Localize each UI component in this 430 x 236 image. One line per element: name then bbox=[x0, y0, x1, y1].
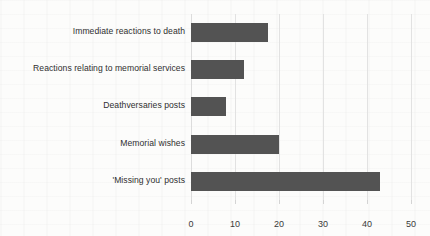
bar-row: Deathversaries posts bbox=[191, 88, 411, 125]
xtick-label-30: 30 bbox=[310, 219, 336, 229]
bar-rows: Immediate reactions to deathReactions re… bbox=[191, 14, 411, 200]
xtick-label-0: 0 bbox=[178, 219, 204, 229]
gridline-50 bbox=[411, 14, 412, 200]
category-label: Immediate reactions to death bbox=[0, 26, 185, 36]
xtick-label-50: 50 bbox=[398, 219, 424, 229]
xtick-label-40: 40 bbox=[354, 219, 380, 229]
bar-row: 'Missing you' posts bbox=[191, 163, 411, 200]
bar-row: Memorial wishes bbox=[191, 126, 411, 163]
bar bbox=[191, 60, 244, 79]
tickmark-0 bbox=[191, 200, 192, 204]
bar bbox=[191, 172, 380, 191]
bar-row: Immediate reactions to death bbox=[191, 14, 411, 51]
category-label: Reactions relating to memorial services bbox=[0, 63, 185, 73]
xtick-label-10: 10 bbox=[222, 219, 248, 229]
xtick-label-20: 20 bbox=[266, 219, 292, 229]
tickmark-50 bbox=[411, 200, 412, 204]
bar bbox=[191, 23, 268, 42]
tickmark-30 bbox=[323, 200, 324, 204]
category-label: Deathversaries posts bbox=[0, 100, 185, 110]
tickmark-40 bbox=[367, 200, 368, 204]
bar bbox=[191, 97, 226, 116]
category-label: 'Missing you' posts bbox=[0, 175, 185, 185]
bar-chart: Immediate reactions to deathReactions re… bbox=[0, 0, 430, 236]
plot-area: Immediate reactions to deathReactions re… bbox=[191, 14, 411, 200]
bar bbox=[191, 135, 279, 154]
bar-row: Reactions relating to memorial services bbox=[191, 51, 411, 88]
tickmark-10 bbox=[235, 200, 236, 204]
category-label: Memorial wishes bbox=[0, 138, 185, 148]
tickmark-20 bbox=[279, 200, 280, 204]
